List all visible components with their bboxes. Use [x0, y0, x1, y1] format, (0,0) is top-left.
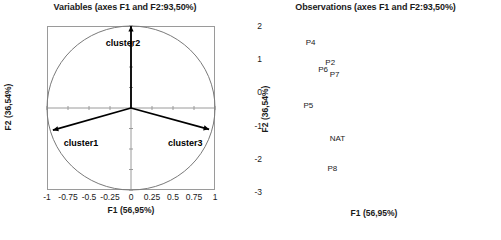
vector-label-cluster1: cluster1	[64, 138, 99, 148]
point-label-P8: P8	[328, 164, 338, 173]
y-tick-label: -3	[254, 187, 262, 197]
variables-x-axis-title: F1 (56,95%)	[47, 205, 215, 215]
y-tick-label: 1	[257, 54, 262, 64]
point-label-P7: P7	[330, 70, 340, 79]
point-label-P5: P5	[304, 101, 314, 110]
observations-plot-graphics	[250, 0, 501, 240]
observations-y-axis-title: F2 (36,54%)	[260, 79, 270, 139]
observations-chart-panel: Observations (axes F1 and F2:93,50%) 210…	[250, 0, 501, 240]
y-tick-label: 2	[257, 21, 262, 31]
variables-y-axis-title: F2 (36,54%)	[3, 77, 13, 137]
vector-label-cluster2: cluster2	[106, 38, 141, 48]
variables-chart-panel: Variables (axes F1 and F2:93,50%) 10.750…	[0, 0, 250, 240]
point-label-P4: P4	[306, 38, 316, 47]
y-tick-label: -2	[254, 154, 262, 164]
observations-x-axis-title: F1 (56,95%)	[265, 208, 483, 218]
x-tick-label: 1	[201, 192, 229, 202]
point-label-NAT: NAT	[330, 134, 345, 143]
vector-label-cluster3: cluster3	[168, 138, 203, 148]
point-label-P6: P6	[318, 65, 328, 74]
